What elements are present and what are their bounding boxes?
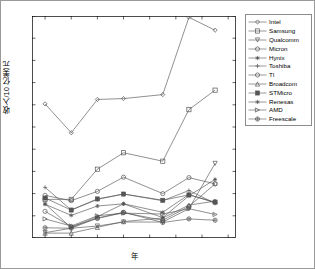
y-axis-title: 收入/10 亿美元 xyxy=(3,61,15,114)
legend-label: TI xyxy=(269,71,275,79)
legend-label: Freescale xyxy=(269,115,296,123)
legend-item-intel[interactable]: Intel xyxy=(248,18,309,27)
legend-marker-square-filled-icon xyxy=(248,89,267,97)
legend-label: Hynix xyxy=(269,54,284,62)
legend-marker-triangle-right-icon xyxy=(248,106,267,114)
legend-item-stmicro[interactable]: STMicro xyxy=(248,88,309,97)
series-intel xyxy=(43,16,217,135)
legend-label: Micron xyxy=(269,45,288,53)
legend-marker-diamond-icon xyxy=(248,18,267,26)
legend-item-hynix[interactable]: Hynix xyxy=(248,53,309,62)
legend-marker-star-icon xyxy=(248,98,267,106)
x-axis-title: 年 xyxy=(1,253,267,261)
chart-svg: 2000200220042006200820102012201405101520… xyxy=(32,16,236,238)
legend-marker-star-filled-icon xyxy=(248,54,267,62)
legend-marker-circle-icon xyxy=(248,45,267,53)
legend-item-toshiba[interactable]: Toshiba xyxy=(248,62,309,71)
legend-label: AMD xyxy=(269,106,283,114)
legend-label: Toshiba xyxy=(269,62,290,70)
legend-label: STMicro xyxy=(269,89,292,97)
legend-item-broadcom[interactable]: Broadcom xyxy=(248,80,309,89)
legend-marker-plus-icon xyxy=(248,62,267,70)
legend-item-ti[interactable]: TI xyxy=(248,71,309,80)
legend-item-qualcomm[interactable]: Qualcomm xyxy=(248,36,309,45)
legend-label: Renesas xyxy=(269,98,293,106)
series-samsung xyxy=(43,88,217,201)
plot-frame xyxy=(33,17,236,238)
legend-item-samsung[interactable]: Samsung xyxy=(248,27,309,36)
chart-legend: IntelSamsungQualcommMicronHynixToshibaTI… xyxy=(245,14,312,126)
legend-item-micron[interactable]: Micron xyxy=(248,44,309,53)
plot-area: 2000200220042006200820102012201405101520… xyxy=(32,16,236,238)
legend-label: Samsung xyxy=(269,27,295,35)
legend-marker-circle-plus-icon xyxy=(248,115,267,123)
legend-item-amd[interactable]: AMD xyxy=(248,106,309,115)
legend-marker-triangle-down-icon xyxy=(248,36,267,44)
legend-label: Intel xyxy=(269,18,281,26)
legend-item-freescale[interactable]: Freescale xyxy=(248,115,309,124)
legend-item-renesas[interactable]: Renesas xyxy=(248,97,309,106)
legend-label: Broadcom xyxy=(269,80,297,88)
legend-label: Qualcomm xyxy=(269,36,299,44)
legend-marker-triangle-up-icon xyxy=(248,80,267,88)
chart-figure: 收入/10 亿美元 200020022004200620082010201220… xyxy=(0,0,315,269)
legend-marker-circle-open-icon xyxy=(248,71,267,79)
legend-marker-square-icon xyxy=(248,27,267,35)
